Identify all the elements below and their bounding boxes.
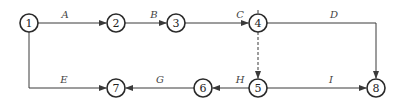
edge-label-i: I bbox=[328, 74, 334, 85]
edge-label-e: E bbox=[59, 74, 68, 85]
node-8-label: 8 bbox=[373, 82, 380, 95]
network-diagram: A B C D E G H I 1 2 bbox=[0, 0, 400, 105]
node-7-label: 7 bbox=[113, 82, 120, 95]
edge-label-g: G bbox=[156, 74, 164, 85]
node-5-label: 5 bbox=[255, 82, 262, 95]
node-3: 3 bbox=[167, 14, 185, 32]
node-2: 2 bbox=[107, 14, 125, 32]
node-4: 4 bbox=[249, 14, 267, 32]
edge-label-a: A bbox=[60, 9, 68, 20]
node-6-label: 6 bbox=[200, 82, 207, 95]
node-5: 5 bbox=[249, 79, 267, 97]
node-4-label: 4 bbox=[255, 17, 262, 30]
edge-label-h: H bbox=[235, 74, 245, 85]
node-8: 8 bbox=[367, 79, 385, 97]
node-1: 1 bbox=[20, 14, 38, 32]
node-7: 7 bbox=[107, 79, 125, 97]
node-1-label: 1 bbox=[26, 17, 33, 30]
node-2-label: 2 bbox=[113, 17, 120, 30]
edge-label-b: B bbox=[149, 9, 157, 20]
node-6: 6 bbox=[194, 79, 212, 97]
edge-label-d: D bbox=[329, 9, 338, 20]
edges: A B C D E G H I bbox=[29, 9, 376, 88]
edge-d bbox=[267, 23, 376, 78]
node-3-label: 3 bbox=[173, 17, 180, 30]
edge-label-c: C bbox=[236, 9, 244, 20]
